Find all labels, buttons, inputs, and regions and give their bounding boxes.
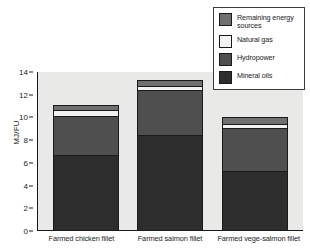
y-axis-tick-label: 0 <box>24 227 28 236</box>
bars-container <box>38 72 303 230</box>
y-axis-tick-label: 4 <box>24 181 28 190</box>
bar-segment <box>223 128 287 171</box>
y-axis-tick-mark <box>29 140 33 141</box>
stacked-bar-chart-figure: MJ/FU 02468101214 Farmed chicken filletF… <box>0 0 310 251</box>
x-axis-label-2: Farmed salmon fillet <box>126 234 214 243</box>
legend-item-label: Natural gas <box>237 35 273 44</box>
y-axis-tick-mark <box>29 117 33 118</box>
legend-item-4: Mineral oils <box>219 71 300 84</box>
legend-item-1: Remaining energy sources <box>219 13 300 30</box>
y-axis-tick-label: 2 <box>24 204 28 213</box>
legend-swatch-icon <box>219 53 232 66</box>
legend-item-3: Hydropower <box>219 53 300 66</box>
plot-area <box>37 72 303 231</box>
legend-swatch-icon <box>219 35 232 48</box>
bar-2 <box>137 80 203 230</box>
bar-1 <box>53 105 119 230</box>
legend-swatch-icon <box>219 71 232 84</box>
x-axis-label-1: Farmed chicken fillet <box>37 234 125 243</box>
bar-segment <box>138 90 202 134</box>
x-axis-labels: Farmed chicken filletFarmed salmon fille… <box>37 234 303 243</box>
y-axis-tick-label: 12 <box>19 90 28 99</box>
y-axis-tick-mark <box>29 208 33 209</box>
bar-segment <box>54 116 118 155</box>
legend-item-label: Mineral oils <box>237 71 272 80</box>
legend-item-label: Remaining energy sources <box>237 13 300 30</box>
legend-item-label: Hydropower <box>237 53 275 62</box>
chart-legend: Remaining energy sourcesNatural gasHydro… <box>213 7 305 90</box>
y-axis-tick-mark <box>29 72 33 73</box>
y-axis-tick-mark <box>29 94 33 95</box>
bar-segment <box>54 155 118 230</box>
x-axis-label-3: Farmed vege-salmon fillet <box>215 234 303 243</box>
y-axis-tick-label: 8 <box>24 136 28 145</box>
bar-segment <box>54 110 118 117</box>
y-axis-tick-label: 6 <box>24 158 28 167</box>
bar-3 <box>222 117 288 230</box>
bar-segment <box>138 135 202 230</box>
legend-item-2: Natural gas <box>219 35 300 48</box>
bar-segment <box>223 171 287 230</box>
y-axis-tick-mark <box>29 185 33 186</box>
y-axis-tick-label: 14 <box>19 68 28 77</box>
y-axis-tick-mark <box>29 231 33 232</box>
y-axis-tick-mark <box>29 162 33 163</box>
legend-swatch-icon <box>219 13 232 26</box>
y-axis-tick-label: 10 <box>19 113 28 122</box>
y-axis: 02468101214 <box>0 0 36 251</box>
